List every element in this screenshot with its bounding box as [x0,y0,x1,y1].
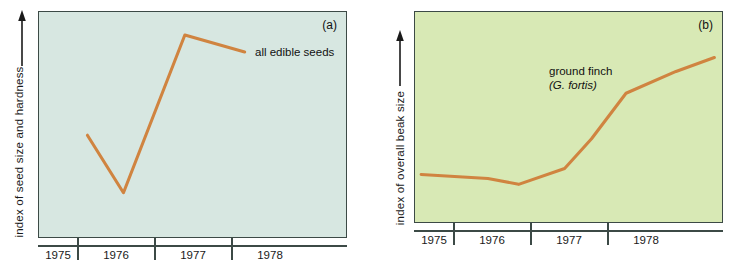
x-axis-tick-a-2 [154,238,156,260]
panel-b: index of overall beak size (b) ground fi… [369,0,738,277]
x-axis-tick-b-2 [530,223,532,245]
annotation-a: all edible seeds [255,45,334,59]
x-axis-tick-b-1 [453,223,455,245]
x-axis-label-a-1977: 1977 [180,249,206,261]
y-axis-arrow-b-icon [394,28,406,86]
annotation-b-species: (G. fortis) [549,78,612,92]
plot-area-b: (b) ground finch (G. fortis) [414,11,723,223]
x-axis-label-b-1975: 1975 [421,234,447,246]
x-axis-line-a [38,245,347,247]
panel-tag-b: (b) [698,18,713,32]
figure-two-panel-line-charts: index of seed size and hardness (a) all … [0,0,738,277]
plot-area-a: (a) all edible seeds [38,11,347,238]
y-axis-label-b: index of overall beak size [373,0,415,225]
x-axis-label-a-1976: 1976 [103,249,129,261]
x-axis-tick-a-1 [77,238,79,260]
annotation-a-text: all edible seeds [255,46,334,58]
series-line-b [415,12,722,222]
panel-a: index of seed size and hardness (a) all … [0,0,369,277]
y-axis-label-a-text: index of seed size and hardness [13,66,25,237]
y-axis-label-b-text: index of overall beak size [394,91,406,225]
y-axis-label-a: index of seed size and hardness [0,0,38,240]
x-axis-label-a-1975: 1975 [45,249,71,261]
x-axis-tick-b-3 [607,223,609,245]
x-axis-label-a-1978: 1978 [257,249,283,261]
x-axis-label-b-1977: 1977 [556,234,582,246]
x-axis-label-b-1978: 1978 [633,234,659,246]
x-axis-label-b-1976: 1976 [479,234,505,246]
annotation-b-common-name: ground finch [549,64,612,78]
panel-tag-a: (a) [322,18,337,32]
y-axis-arrow-a-icon [16,8,28,66]
x-axis-line-b [414,230,723,232]
x-axis-tick-a-3 [231,238,233,260]
annotation-b: ground finch (G. fortis) [549,64,612,93]
